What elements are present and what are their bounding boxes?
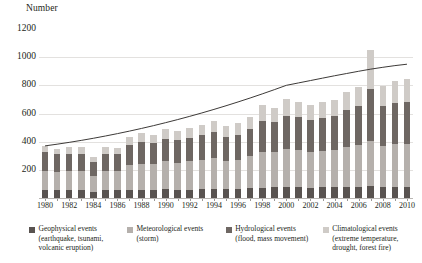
x-tick bbox=[178, 199, 179, 201]
legend-label: Meteorological events (storm) bbox=[136, 224, 203, 243]
legend-label: Hydrological events (flood, mass movemen… bbox=[235, 224, 308, 243]
legend-label: Climatological events (extreme temperatu… bbox=[332, 224, 398, 253]
legend-item: Hydrological events (flood, mass movemen… bbox=[226, 224, 323, 243]
x-tick-label: 2000 bbox=[278, 202, 294, 210]
y-tick-label: 600 bbox=[22, 109, 36, 119]
x-tick bbox=[57, 199, 58, 201]
x-tick bbox=[298, 199, 299, 201]
x-tick-label: 1980 bbox=[37, 202, 53, 210]
legend-item: Geophysical events (earthquake, tsunami,… bbox=[29, 224, 127, 253]
x-tick-label: 1992 bbox=[182, 202, 198, 210]
x-tick-label: 1986 bbox=[109, 202, 125, 210]
x-tick-label: 1998 bbox=[254, 202, 270, 210]
x-tick-label: 2008 bbox=[375, 202, 391, 210]
legend-swatch bbox=[226, 227, 232, 233]
y-axis-ticks: 20040060080010001200 bbox=[0, 29, 36, 198]
x-tick-label: 1994 bbox=[206, 202, 222, 210]
x-tick bbox=[274, 199, 275, 201]
x-tick bbox=[81, 199, 82, 201]
chart-container: Number 20040060080010001200 198019821984… bbox=[0, 0, 422, 263]
x-tick bbox=[371, 199, 372, 201]
x-tick bbox=[347, 199, 348, 201]
x-tick-label: 2004 bbox=[327, 202, 343, 210]
x-tick bbox=[129, 199, 130, 201]
x-tick-label: 2002 bbox=[302, 202, 318, 210]
chart-legend: Geophysical events (earthquake, tsunami,… bbox=[29, 224, 415, 253]
y-tick-label: 1000 bbox=[17, 52, 36, 62]
x-tick-label: 1988 bbox=[134, 202, 150, 210]
x-tick bbox=[105, 199, 106, 201]
x-tick-label: 1984 bbox=[85, 202, 101, 210]
x-tick bbox=[250, 199, 251, 201]
legend-label: Geophysical events (earthquake, tsunami,… bbox=[39, 224, 104, 253]
x-tick-label: 1996 bbox=[230, 202, 246, 210]
legend-swatch bbox=[323, 227, 329, 233]
x-tick bbox=[202, 199, 203, 201]
x-tick-label: 2010 bbox=[399, 202, 415, 210]
y-tick-label: 1200 bbox=[17, 24, 36, 34]
x-tick-label: 1982 bbox=[61, 202, 77, 210]
legend-item: Climatological events (extreme temperatu… bbox=[323, 224, 415, 253]
x-tick-label: 2006 bbox=[351, 202, 367, 210]
y-tick-label: 200 bbox=[22, 165, 36, 175]
x-axis-ticks: 1980198219841986198819901992199419961998… bbox=[39, 199, 413, 215]
legend-swatch bbox=[127, 227, 133, 233]
x-tick-label: 1990 bbox=[158, 202, 174, 210]
trend-line-path bbox=[45, 64, 407, 146]
x-tick bbox=[226, 199, 227, 201]
y-axis-title: Number bbox=[26, 3, 58, 13]
x-tick bbox=[154, 199, 155, 201]
legend-swatch bbox=[29, 227, 35, 233]
plot-area bbox=[39, 29, 413, 198]
trend-line bbox=[39, 29, 413, 198]
legend-item: Meteorological events (storm) bbox=[127, 224, 226, 243]
x-tick bbox=[395, 199, 396, 201]
y-tick-label: 400 bbox=[22, 137, 36, 147]
y-tick-label: 800 bbox=[22, 81, 36, 91]
x-tick bbox=[323, 199, 324, 201]
